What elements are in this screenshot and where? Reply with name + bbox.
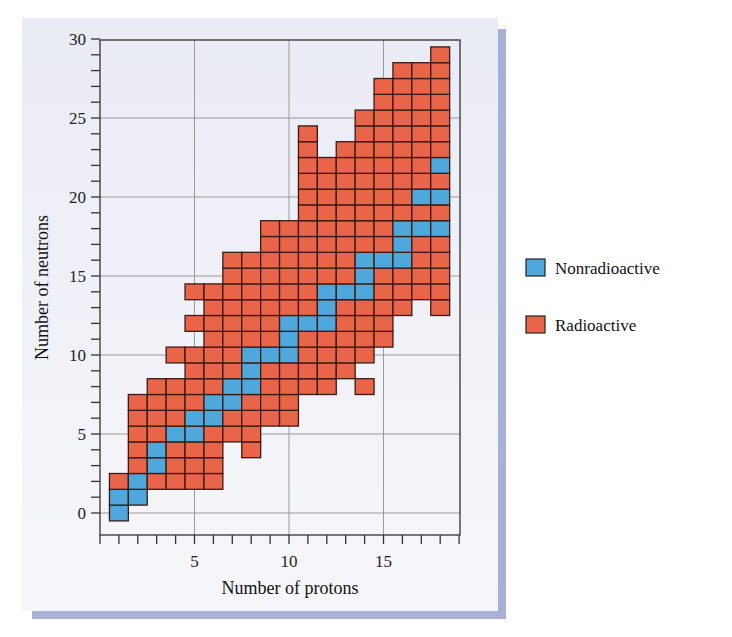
cell-radioactive [355,347,374,363]
cell-nonradioactive [128,489,147,505]
cell-nonradioactive [374,252,393,268]
cell-radioactive [393,268,412,284]
cell-radioactive [412,252,431,268]
cell-radioactive [298,363,317,379]
cell-radioactive [147,474,166,490]
cell-radioactive [204,379,223,395]
legend-swatch-nonradioactive [526,259,545,276]
cell-radioactive [185,442,204,458]
cell-nonradioactive [261,347,280,363]
cell-radioactive [317,268,336,284]
cell-radioactive [185,474,204,490]
cell-radioactive [355,126,374,142]
cell-radioactive [412,110,431,126]
cell-radioactive [223,284,242,300]
cell-radioactive [336,205,355,221]
cell-nonradioactive [128,474,147,490]
cell-radioactive [280,237,299,253]
cell-radioactive [185,379,204,395]
cell-radioactive [374,79,393,95]
cell-nonradioactive [280,331,299,347]
cell-radioactive [374,237,393,253]
cell-radioactive [355,189,374,205]
cell-radioactive [355,110,374,126]
chart: 51015051015202530 Number of protons Numb… [0,0,732,637]
cell-radioactive [185,347,204,363]
cell-radioactive [336,142,355,158]
cell-radioactive [374,268,393,284]
cell-radioactive [336,268,355,284]
cell-radioactive [431,142,450,158]
cell-radioactive [223,331,242,347]
cell-radioactive [374,189,393,205]
cell-radioactive [223,268,242,284]
y-tick-label: 30 [69,30,86,49]
cell-nonradioactive [317,300,336,316]
cell-radioactive [431,173,450,189]
cell-radioactive [431,268,450,284]
cell-radioactive [298,221,317,237]
cell-radioactive [431,63,450,79]
cell-radioactive [431,110,450,126]
cell-radioactive [431,79,450,95]
cell-radioactive [336,237,355,253]
cell-radioactive [298,173,317,189]
cell-radioactive [431,94,450,110]
cell-radioactive [261,237,280,253]
y-axis-title: Number of neutrons [32,215,52,360]
cell-radioactive [355,331,374,347]
cell-radioactive [298,379,317,395]
cell-radioactive [223,410,242,426]
cell-radioactive [336,173,355,189]
cell-radioactive [223,347,242,363]
cell-radioactive [431,47,450,63]
cell-radioactive [336,316,355,332]
cell-nonradioactive [393,237,412,253]
cell-radioactive [393,94,412,110]
cell-nonradioactive [355,252,374,268]
cell-radioactive [298,126,317,142]
cell-radioactive [204,284,223,300]
cell-nonradioactive [280,316,299,332]
cell-radioactive [374,284,393,300]
cell-nonradioactive [223,395,242,411]
cell-radioactive [128,458,147,474]
cell-radioactive [261,252,280,268]
cell-nonradioactive [204,395,223,411]
cell-radioactive [280,410,299,426]
cell-radioactive [242,284,261,300]
cell-radioactive [317,221,336,237]
cell-radioactive [261,221,280,237]
cell-radioactive [147,426,166,442]
cell-radioactive [261,395,280,411]
cell-radioactive [204,442,223,458]
cell-nonradioactive [317,316,336,332]
cell-radioactive [393,300,412,316]
cell-nonradioactive [185,410,204,426]
cell-radioactive [185,284,204,300]
cell-radioactive [317,363,336,379]
cell-radioactive [393,79,412,95]
cell-radioactive [128,426,147,442]
cell-radioactive [280,252,299,268]
cell-nonradioactive [355,284,374,300]
cell-nonradioactive [393,221,412,237]
cell-nonradioactive [431,221,450,237]
cell-radioactive [261,300,280,316]
cell-nonradioactive [147,442,166,458]
cell-radioactive [336,331,355,347]
cell-radioactive [280,395,299,411]
cell-radioactive [336,189,355,205]
cell-radioactive [393,189,412,205]
cell-radioactive [355,142,374,158]
x-tick-label: 5 [190,552,199,571]
cell-radioactive [336,300,355,316]
cell-radioactive [204,363,223,379]
cell-radioactive [166,395,185,411]
cell-radioactive [128,395,147,411]
cell-radioactive [185,363,204,379]
cell-radioactive [393,63,412,79]
cell-nonradioactive [336,284,355,300]
cell-radioactive [109,474,128,490]
cell-nonradioactive [355,268,374,284]
